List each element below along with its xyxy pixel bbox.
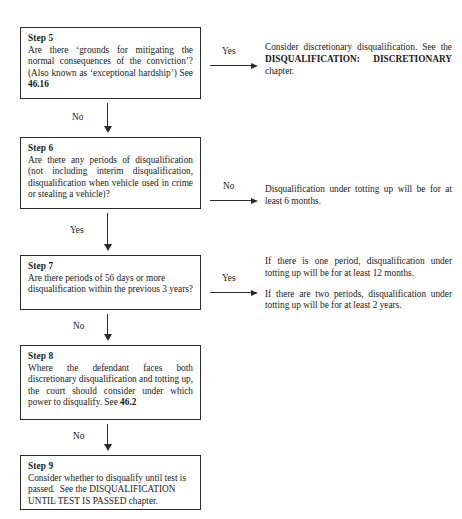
arrow-label-step8-no: No (73, 431, 84, 442)
step-title-step-6: Step 6 (28, 143, 193, 155)
step-box-step-5: Step 5 Are there ‘grounds for mitigating… (20, 27, 201, 99)
step-title-step-5: Step 5 (28, 33, 193, 45)
step-box-step-6: Step 6 Are there any periods of disquali… (20, 137, 201, 209)
arrow-shaft (210, 292, 251, 293)
arrow-label-step5-no: No (72, 112, 83, 123)
arrow-step8-no (103, 424, 112, 452)
arrow-label-step6-yes: Yes (70, 225, 84, 236)
step-body-step-5: Are there ‘grounds for mitigating the no… (28, 45, 193, 91)
arrow-label-step7-no: No (73, 321, 84, 332)
outcome-paragraph: Consider discretionary disqualification.… (265, 42, 452, 77)
arrow-shaft (210, 200, 251, 201)
outcome-text-step6-no: Disqualification under totting up will b… (265, 184, 452, 208)
arrow-step7-yes (210, 288, 258, 297)
arrow-head (251, 290, 258, 296)
step-title-step-7: Step 7 (28, 261, 193, 273)
arrow-head (104, 444, 112, 451)
arrow-shaft (107, 424, 108, 445)
arrow-step6-no (210, 196, 258, 205)
step-body-step-8: Where the defendant faces both discretio… (28, 363, 193, 409)
outcome-text-step5-yes: Consider discretionary disqualification.… (265, 42, 452, 77)
outcome-paragraph: If there is one period, disqualification… (265, 256, 452, 280)
step-body-step-9: Consider whether to disqualify until tes… (28, 473, 193, 508)
arrow-step5-yes (210, 61, 258, 70)
arrow-head (251, 198, 258, 204)
outcome-text-step7-yes: If there is one period, disqualification… (265, 256, 452, 312)
arrow-shaft (107, 103, 108, 127)
arrow-shaft (210, 65, 251, 66)
arrow-step5-no (103, 103, 112, 134)
step-title-step-8: Step 8 (28, 351, 193, 363)
arrow-step6-yes (103, 213, 112, 252)
step-box-step-8: Step 8 Where the defendant faces both di… (20, 345, 201, 420)
step-body-step-6: Are there any periods of disqualificatio… (28, 155, 193, 201)
arrow-head (104, 244, 112, 251)
arrow-head (104, 126, 112, 133)
step-box-step-7: Step 7 Are there periods of 56 days or m… (20, 255, 201, 310)
outcome-paragraph: Disqualification under totting up will b… (265, 184, 452, 208)
step-title-step-9: Step 9 (28, 461, 193, 473)
arrow-label-step6-no: No (223, 181, 234, 192)
arrow-label-step5-yes: Yes (222, 46, 236, 57)
outcome-paragraph: If there are two periods, disqualificati… (265, 289, 452, 313)
step-box-step-9: Step 9 Consider whether to disqualify un… (20, 455, 201, 510)
arrow-head (104, 334, 112, 341)
arrow-label-step7-yes: Yes (222, 273, 236, 284)
arrow-step7-no (103, 314, 112, 342)
page-footer-fragment (22, 512, 142, 519)
arrow-shaft (107, 314, 108, 335)
step-body-step-7: Are there periods of 56 days or more dis… (28, 273, 193, 296)
arrow-head (251, 63, 258, 69)
arrow-shaft (107, 213, 108, 245)
flowchart-canvas: Step 5 Are there ‘grounds for mitigating… (0, 0, 462, 519)
